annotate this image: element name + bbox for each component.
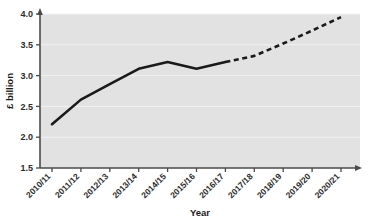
plot-area-background (40, 14, 360, 168)
y-axis-title: £ billion (4, 73, 15, 109)
x-tick-label: 2019/20 (284, 171, 313, 200)
y-tick-label: 1.5 (20, 163, 33, 173)
x-tick-label: 2017/18 (226, 171, 255, 200)
x-tick-label: 2014/15 (139, 171, 168, 200)
y-tick-label: 3.5 (20, 40, 33, 50)
x-tick-label: 2013/14 (110, 171, 139, 200)
x-tick-label: 2012/13 (81, 171, 110, 200)
y-tick-label: 4.0 (20, 9, 33, 19)
x-axis-ticks: 2010/112011/122012/132013/142014/152015/… (24, 168, 342, 200)
x-tick-label: 2016/17 (197, 171, 226, 200)
x-tick-label: 2018/19 (255, 171, 284, 200)
y-axis-ticks: 1.52.02.53.03.54.0 (20, 9, 40, 173)
chart-canvas: 1.52.02.53.03.54.0 2010/112011/122012/13… (0, 0, 370, 223)
x-tick-label: 2011/12 (53, 171, 82, 200)
x-tick-label: 2010/11 (24, 171, 53, 200)
x-tick-label: 2015/16 (168, 171, 197, 200)
y-tick-label: 2.0 (20, 132, 33, 142)
y-tick-label: 2.5 (20, 102, 33, 112)
y-tick-label: 3.0 (20, 71, 33, 81)
x-axis-title: Year (190, 207, 210, 218)
line-chart: 1.52.02.53.03.54.0 2010/112011/122012/13… (0, 0, 370, 223)
x-tick-label: 2020/21 (313, 171, 342, 200)
